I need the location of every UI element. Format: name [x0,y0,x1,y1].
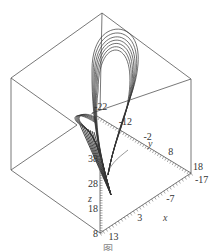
y-axis-tick [120,131,122,134]
x-axis-label: x [162,212,168,223]
x-axis-tick [106,229,108,232]
box-edge [11,125,77,170]
x-axis-tick [158,195,160,198]
y-axis-tick [115,128,117,131]
y-axis-tick [128,136,130,139]
y-axis-tick [105,122,107,125]
y-axis-tick [187,172,189,175]
y-axis-tick [182,169,184,172]
y-axis-tick [150,149,152,152]
y-axis-tick [130,137,132,140]
box-edge [11,13,102,78]
y-axis-tick [125,134,127,137]
x-axis-tick [152,199,154,202]
y-axis-tick [123,133,125,136]
y-axis-tick [110,125,112,128]
y-axis-tick [162,157,164,160]
y-axis-tick [160,155,162,158]
y-axis-tick [113,127,115,130]
x-tick-label: -7 [166,193,174,204]
x-axis-tick [146,203,148,206]
x-axis-tick [118,221,120,224]
x-axis-tick [170,187,172,190]
attractor-plot: -22-12-2818133-7-178182838yxz [0,0,215,251]
x-tick-label: 3 [137,212,142,223]
y-axis-tick [140,143,142,146]
y-axis-tick [138,142,140,145]
x-axis-tick [130,213,132,216]
y-axis-tick [170,161,172,164]
y-axis-tick [100,119,102,122]
y-axis-tick [152,151,154,154]
z-tick-label: 28 [88,178,98,189]
x-axis-tick [155,197,157,200]
y-tick-label: -22 [94,101,107,112]
x-tick-label: -17 [195,174,208,185]
z-tick-label: 18 [88,203,98,214]
x-tick-label: 13 [109,231,119,242]
x-axis-tick [112,225,114,228]
x-axis-tick [167,189,169,192]
y-axis-tick [145,146,147,149]
x-axis-tick [133,211,135,214]
y-axis-tick [177,166,179,169]
y-axis-tick [172,163,174,166]
x-axis-tick [173,185,175,188]
x-axis-tick [115,223,117,226]
x-axis-tick [139,207,141,210]
bounding-box [11,13,191,233]
y-axis-tick [165,158,167,161]
y-axis-tick [108,124,110,127]
y-axis-label: y [147,138,153,149]
y-axis-tick [142,145,144,148]
y-tick-label: 8 [168,146,173,157]
x-axis-tick [161,193,163,196]
x-axis-tick [182,179,184,182]
x-axis-tick [124,217,126,220]
y-axis-tick [155,152,157,155]
y-tick-label: 18 [193,161,203,172]
x-axis-tick [103,231,105,234]
y-axis-tick [103,121,105,124]
x-axis-tick [185,177,187,180]
x-axis-tick [176,183,178,186]
x-axis-tick [164,191,166,194]
axes: -22-12-2818133-7-178182838yxz [87,101,208,242]
y-axis-tick [180,167,182,170]
box-edge [11,78,77,125]
box-edge [102,13,191,79]
y-axis-tick [98,118,100,121]
x-axis-tick [121,219,123,222]
trajectory-loop [92,29,138,195]
y-axis-tick [133,139,135,142]
trajectory-loop [93,33,137,195]
x-axis-tick [127,215,129,218]
y-axis-tick [157,154,159,157]
x-axis-tick [109,227,111,230]
z-axis-label: z [87,193,92,204]
z-tick-label: 38 [88,153,98,164]
x-axis-tick [142,205,144,208]
z-tick-label: 8 [93,228,98,239]
trajectory [75,29,138,195]
x-axis-tick [191,173,193,176]
trajectory-arc [106,150,128,180]
x-axis-tick [179,181,181,184]
y-axis-tick [185,170,187,173]
y-tick-label: -12 [119,116,132,127]
box-edge [11,170,100,233]
figure-caption: 图 [0,243,215,251]
y-axis-tick [135,140,137,143]
x-axis-tick [188,175,190,178]
y-axis-tick [175,164,177,167]
x-axis-tick [100,233,102,236]
x-axis-tick [149,201,151,204]
y-axis-tick [167,160,169,163]
